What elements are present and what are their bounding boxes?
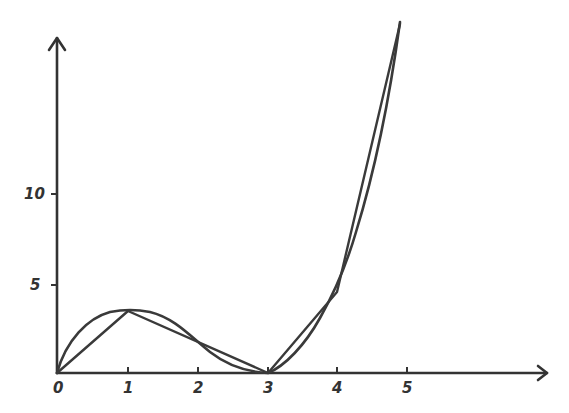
x-tick-label-0: 0 [53, 379, 63, 397]
x-tick-label-2: 2 [193, 379, 203, 397]
x-tick-label-5: 5 [402, 379, 412, 397]
polygonal-approximation [57, 24, 400, 373]
function-curve [57, 22, 400, 373]
y-axis: 5 10 [24, 38, 65, 373]
x-tick-label-1: 1 [123, 379, 133, 397]
chart: 5 10 0 1 2 3 4 5 [0, 0, 569, 413]
x-tick-label-3: 3 [263, 379, 273, 397]
y-tick-label-10: 10 [24, 185, 45, 203]
y-tick-label-5: 5 [30, 276, 40, 294]
x-tick-label-4: 4 [331, 379, 342, 397]
x-axis: 0 1 2 3 4 5 [53, 366, 547, 397]
